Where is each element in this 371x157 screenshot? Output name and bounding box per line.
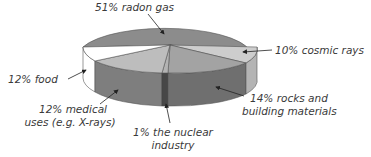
label-radon: 51% radon gas [95,1,174,13]
label-rocks-line2: building materials [242,105,337,117]
label-nuclear-line2: industry [128,139,218,151]
slice-side-nuclear [162,73,168,106]
label-cosmic: 10% cosmic rays [275,44,364,56]
label-nuclear-line1: 1% the nuclear [128,126,218,138]
label-medical-line1: 12% medical [28,103,118,115]
label-food: 12% food [8,73,58,85]
arrow-nuclear [166,104,170,123]
label-rocks-line1: 14% rocks and [250,92,328,104]
label-medical-line2: uses (e.g. X-rays) [20,116,120,128]
